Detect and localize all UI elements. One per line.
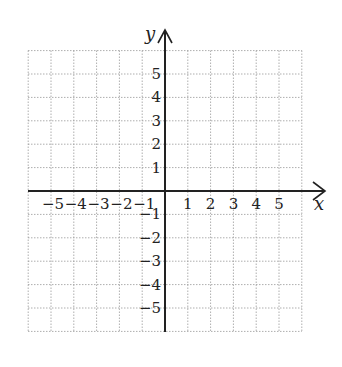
y-tick-label: −2 — [139, 229, 161, 247]
x-tick-label: 2 — [206, 195, 216, 213]
x-tick-label: 4 — [251, 195, 261, 213]
y-tick-label: 5 — [151, 65, 161, 83]
y-tick-label: −3 — [139, 252, 161, 270]
x-tick-label: 3 — [229, 195, 239, 213]
y-tick-label: 1 — [151, 159, 161, 177]
y-tick-label: −1 — [139, 205, 161, 223]
x-tick-label: −5 — [42, 195, 64, 213]
x-tick-label: 1 — [183, 195, 193, 213]
y-tick-label: 3 — [151, 112, 161, 130]
y-tick-label: 4 — [151, 88, 161, 106]
x-tick-labels: −5−4−3−2−112345 — [42, 195, 284, 213]
y-tick-label: −5 — [139, 299, 161, 317]
x-tick-label: −2 — [110, 195, 132, 213]
x-tick-label: −4 — [65, 195, 87, 213]
y-tick-label: −4 — [139, 276, 161, 294]
axes — [28, 30, 325, 332]
x-tick-label: −3 — [88, 195, 110, 213]
x-tick-label: 5 — [274, 195, 284, 213]
x-axis-label: x — [314, 193, 324, 214]
y-tick-label: 2 — [151, 135, 161, 153]
coordinate-plane: −5−4−3−2−112345 54321−1−2−3−4−5 x y — [0, 0, 342, 367]
y-axis-label: y — [144, 23, 156, 44]
